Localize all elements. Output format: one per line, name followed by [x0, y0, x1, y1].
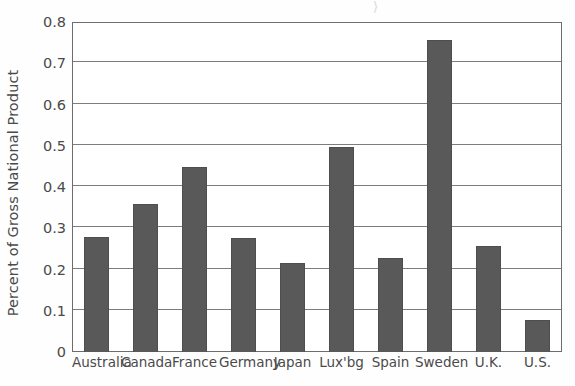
bar-slot: [72, 22, 121, 352]
bar-series: [72, 22, 562, 352]
x-axis-tick-label: Lux'bg: [317, 354, 366, 370]
x-axis-tick-label: Spain: [366, 354, 415, 370]
y-axis-tick-label: 0.8: [20, 14, 66, 30]
x-axis-tick-label: U.K.: [464, 354, 513, 370]
bar-slot: [170, 22, 219, 352]
y-axis-tick-label: 0.3: [20, 220, 66, 236]
bar-slot: [121, 22, 170, 352]
bar-australia: [84, 237, 109, 352]
x-axis-tick-label: Canada: [121, 354, 170, 370]
bar-lux-bg: [329, 147, 354, 352]
bar-u-s: [525, 320, 550, 352]
bar-canada: [133, 204, 158, 353]
bar-japan: [280, 263, 305, 352]
y-axis-tick-label: 0.6: [20, 97, 66, 113]
y-axis-tick-label: 0.2: [20, 262, 66, 278]
x-axis-tick-labels: AustraliaCanadaFranceGermanyJapanLux'bgS…: [72, 354, 562, 378]
bar-spain: [378, 258, 403, 352]
x-axis-tick-label: Australia: [72, 354, 121, 370]
y-axis-tick-label: 0: [20, 344, 66, 360]
scan-artifact-mark: ⟩: [373, 1, 385, 12]
y-axis-tick-label: 0.1: [20, 303, 66, 319]
bar-u-k: [476, 246, 501, 352]
x-axis-tick-label: U.S.: [513, 354, 562, 370]
bar-slot: [464, 22, 513, 352]
bar-germany: [231, 238, 256, 352]
bar-slot: [219, 22, 268, 352]
bar-slot: [366, 22, 415, 352]
x-axis-tick-label: Germany: [219, 354, 268, 370]
y-axis-tick-label: 0.4: [20, 179, 66, 195]
x-axis-tick-label: Japan: [268, 354, 317, 370]
bar-slot: [415, 22, 464, 352]
bar-slot: [317, 22, 366, 352]
x-axis-tick-label: France: [170, 354, 219, 370]
y-axis-tick-label: 0.5: [20, 138, 66, 154]
bar-slot: [268, 22, 317, 352]
y-axis-tick-label: 0.7: [20, 55, 66, 71]
bar-france: [182, 167, 207, 352]
bar-sweden: [427, 40, 452, 352]
bar-chart: ⟩ Percent of Gross National Product 00.1…: [0, 0, 575, 386]
x-axis-tick-label: Sweden: [415, 354, 464, 370]
bar-slot: [513, 22, 562, 352]
